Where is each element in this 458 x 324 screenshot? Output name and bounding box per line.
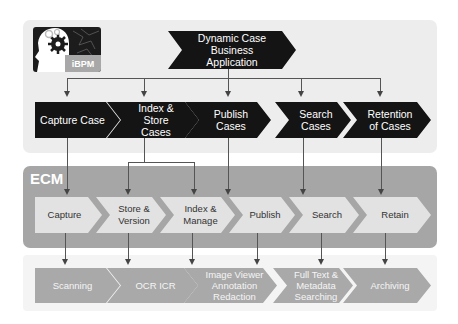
capability-scanning: Scanning: [35, 268, 120, 303]
connector: [380, 78, 381, 92]
arrow-down-icon: [191, 189, 197, 195]
connector: [67, 138, 68, 191]
ibpm-label: iBPM: [65, 55, 101, 72]
arrow-down-icon: [189, 259, 195, 265]
connector: [67, 78, 68, 92]
arrow-down-icon: [300, 189, 306, 195]
dynamic-case-business-application: Dynamic Case Business Application: [168, 31, 296, 69]
connector: [381, 138, 382, 191]
connector: [128, 162, 129, 191]
arrow-down-icon: [141, 91, 147, 97]
arrow-down-icon: [225, 91, 231, 97]
connector: [192, 233, 193, 261]
arrow-down-icon: [382, 259, 388, 265]
arrow-down-icon: [62, 259, 68, 265]
connector: [257, 233, 258, 261]
connector: [128, 162, 195, 163]
ecm-step-capture: Capture: [35, 197, 102, 233]
arrow-down-icon: [125, 189, 131, 195]
connector: [144, 78, 145, 92]
arrow-down-icon: [377, 91, 383, 97]
arrow-down-icon: [254, 259, 260, 265]
connector: [228, 138, 229, 191]
connector: [301, 78, 302, 92]
connector: [321, 233, 322, 261]
arrow-down-icon: [125, 259, 131, 265]
arrow-down-icon: [318, 259, 324, 265]
arrow-down-icon: [64, 91, 70, 97]
arrow-down-icon: [225, 189, 231, 195]
connector: [303, 138, 304, 191]
arrow-down-icon: [298, 91, 304, 97]
arrow-down-icon: [64, 189, 70, 195]
connector: [144, 138, 145, 162]
connector: [128, 233, 129, 261]
connector: [385, 233, 386, 261]
connector: [228, 78, 229, 92]
connector: [65, 233, 66, 261]
ibpm-logo: iBPM: [33, 27, 101, 72]
connector: [194, 162, 195, 191]
connector: [67, 78, 381, 79]
arrow-down-icon: [378, 189, 384, 195]
ecm-title: ECM: [30, 170, 63, 187]
step-capture-case: Capture Case: [35, 102, 120, 138]
